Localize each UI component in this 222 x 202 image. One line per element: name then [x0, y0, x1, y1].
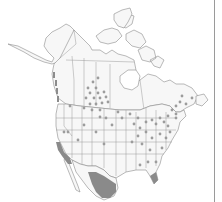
occurrence-point — [191, 97, 194, 100]
occurrence-point — [99, 97, 102, 100]
occurrence-point — [91, 109, 94, 112]
occurrence-point — [83, 107, 86, 110]
occurrence-point — [101, 102, 104, 105]
occurrence-point — [151, 137, 154, 140]
occurrence-point — [63, 131, 66, 134]
occurrence-point — [179, 101, 182, 104]
occurrence-point — [175, 117, 178, 120]
occurrence-point — [67, 131, 70, 134]
occurrence-point — [105, 96, 108, 99]
occurrence-point — [175, 113, 178, 116]
occurrence-point — [145, 131, 148, 134]
occurrence-point — [163, 121, 166, 124]
occurrence-point — [139, 164, 142, 167]
occurrence-point — [181, 95, 184, 98]
occurrence-point — [159, 133, 162, 136]
occurrence-point — [105, 117, 108, 120]
occurrence-point — [149, 149, 152, 152]
occurrence-point — [175, 105, 178, 108]
occurrence-point — [93, 97, 96, 100]
occurrence-point — [131, 141, 134, 144]
occurrence-point — [129, 113, 132, 116]
occurrence-point — [95, 87, 98, 90]
occurrence-point — [92, 81, 95, 84]
distribution-map — [0, 0, 222, 202]
occurrence-point — [99, 109, 102, 112]
occurrence-point — [103, 91, 106, 94]
occurrence-point — [97, 92, 100, 95]
occurrence-point — [147, 161, 150, 164]
occurrence-point — [169, 131, 172, 134]
occurrence-point — [167, 115, 170, 118]
occurrence-point — [99, 116, 102, 119]
occurrence-point — [69, 105, 72, 108]
occurrence-point — [103, 143, 106, 146]
occurrence-point — [137, 135, 140, 138]
occurrence-point — [159, 117, 162, 120]
occurrence-point — [133, 123, 136, 126]
newfoundland-outline — [196, 94, 208, 106]
occurrence-point — [117, 111, 120, 114]
occurrence-point — [111, 124, 114, 127]
occurrence-point — [185, 103, 188, 106]
occurrence-point — [151, 119, 154, 122]
occurrence-point — [139, 127, 142, 130]
occurrence-point — [165, 137, 168, 140]
occurrence-point — [83, 124, 86, 127]
occurrence-point — [137, 117, 140, 120]
occurrence-point — [87, 87, 90, 90]
occurrence-point — [97, 77, 100, 80]
occurrence-point — [89, 92, 92, 95]
occurrence-point — [145, 121, 148, 124]
occurrence-point — [107, 101, 110, 104]
usa-outline — [56, 104, 186, 184]
occurrence-point — [85, 97, 88, 100]
occurrence-point — [95, 131, 98, 134]
occurrence-point — [155, 161, 158, 164]
frame-edge — [214, 0, 215, 202]
occurrence-point — [77, 139, 80, 142]
occurrence-point — [141, 143, 144, 146]
north-america-map — [0, 0, 222, 202]
occurrence-point — [89, 103, 92, 106]
occurrence-point — [95, 103, 98, 106]
occurrence-point — [161, 147, 164, 150]
occurrence-point — [171, 109, 174, 112]
occurrence-point — [121, 117, 124, 120]
occurrence-point — [167, 125, 170, 128]
occurrence-point — [155, 123, 158, 126]
